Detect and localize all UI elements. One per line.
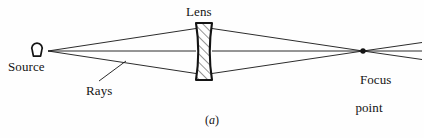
focus-point-dot	[360, 48, 365, 53]
figure-caption: (a)	[0, 113, 424, 128]
label-lens: Lens	[186, 5, 212, 19]
lens-element	[192, 20, 218, 84]
figure-optics-ray-diagram: Source Lens Rays Focus point (a)	[0, 0, 424, 138]
label-focus-line1: Focus	[360, 72, 392, 87]
label-rays: Rays	[86, 84, 112, 98]
label-source: Source	[8, 60, 45, 74]
lightbulb-icon	[32, 43, 42, 56]
caption-close-paren: )	[215, 113, 219, 127]
rays-leader-line	[99, 61, 126, 81]
